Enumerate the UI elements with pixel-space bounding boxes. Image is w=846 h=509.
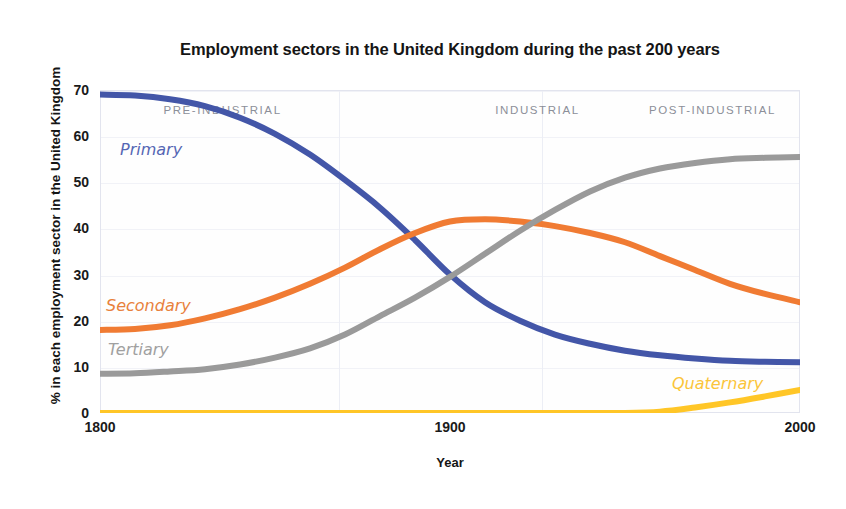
series-line-tertiary — [100, 157, 800, 374]
y-tick-label: 30 — [49, 267, 89, 283]
series-line-primary — [100, 95, 800, 363]
chart-title: Employment sectors in the United Kingdom… — [100, 40, 800, 59]
y-tick-label: 40 — [49, 220, 89, 236]
x-axis-title: Year — [100, 455, 800, 470]
y-tick-label: 60 — [49, 128, 89, 144]
series-label-tertiary: Tertiary — [108, 340, 169, 359]
series-label-primary: Primary — [120, 140, 182, 159]
y-tick-label: 70 — [49, 82, 89, 98]
y-tick-label: 10 — [49, 359, 89, 375]
series-line-quaternary — [100, 390, 800, 413]
y-tick-label: 20 — [49, 313, 89, 329]
x-tick-label: 2000 — [784, 419, 815, 435]
y-tick-label: 0 — [49, 405, 89, 421]
x-tick-label: 1900 — [434, 419, 465, 435]
x-tick-label: 1800 — [84, 419, 115, 435]
series-label-quaternary: Quaternary — [672, 374, 763, 393]
series-curves — [100, 90, 800, 413]
y-tick-label: 50 — [49, 174, 89, 190]
series-label-secondary: Secondary — [106, 296, 191, 315]
chart-figure: Employment sectors in the United Kingdom… — [0, 0, 846, 509]
